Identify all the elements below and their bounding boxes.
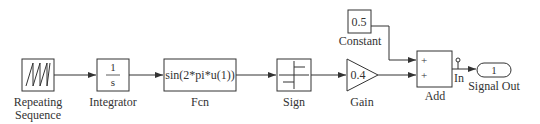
sign-label: Sign <box>264 96 324 109</box>
gain-label: Gain <box>332 96 392 109</box>
integrator-numerator: 1 <box>110 61 116 73</box>
integrator-label: Integrator <box>83 96 143 109</box>
sign-block[interactable] <box>277 59 311 91</box>
fcn-label: Fcn <box>170 96 230 109</box>
add-input1-sign: + <box>421 54 427 66</box>
fcn-expression: sin(2*pi*u(1)) <box>165 68 234 82</box>
signal-label-marker <box>456 58 460 62</box>
gain-value: 0.4 <box>351 68 366 82</box>
repeating-sequence-label-line2: Sequence <box>6 109 70 122</box>
repeating-sequence-block[interactable] <box>22 59 54 91</box>
signal-out-label: Signal Out <box>464 80 524 93</box>
constant-label: Constant <box>334 35 386 48</box>
integrator-denominator: s <box>111 76 115 88</box>
constant-value: 0.5 <box>352 15 367 29</box>
add-input2-sign: + <box>421 69 427 81</box>
signal-out-port-number: 1 <box>491 64 497 76</box>
add-label: Add <box>405 90 465 103</box>
